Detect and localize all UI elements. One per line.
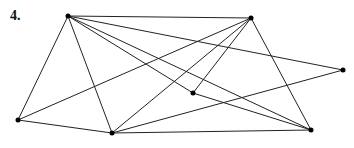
vertex-C [341,68,346,73]
edge-A-B [68,16,251,18]
vertex-D [16,118,21,123]
edge-A-C [68,16,343,70]
edge-B-F [193,18,251,93]
vertex-G [309,128,314,133]
edge-C-E [112,70,343,133]
edge-D-E [18,120,112,133]
graph-figure: 4. [0,0,354,148]
vertex-B [249,16,254,21]
graph-diagram [0,0,354,148]
vertex-E [110,131,115,136]
edge-B-G [251,18,311,130]
vertex-F [191,91,196,96]
edge-E-G [112,130,311,133]
edge-A-D [18,16,68,120]
edge-B-E [112,18,251,133]
vertex-A [66,14,71,19]
edge-F-G [193,93,311,130]
